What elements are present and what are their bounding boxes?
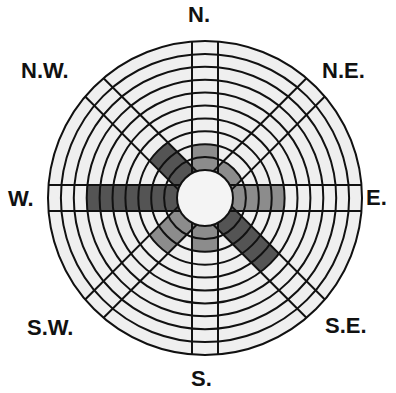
label-east: E. xyxy=(366,187,387,209)
label-north-west: N.W. xyxy=(21,60,69,82)
label-south: S. xyxy=(191,368,212,390)
label-south-west: S.W. xyxy=(27,317,73,339)
label-west: W. xyxy=(8,188,34,210)
spoke-cell-w xyxy=(113,185,127,211)
rose-hub xyxy=(177,170,233,226)
spoke-cell-w xyxy=(100,185,114,211)
label-north: N. xyxy=(188,4,210,26)
label-north-east: N.E. xyxy=(322,60,365,82)
label-south-east: S.E. xyxy=(325,315,367,337)
spoke-cell-w xyxy=(87,185,101,211)
